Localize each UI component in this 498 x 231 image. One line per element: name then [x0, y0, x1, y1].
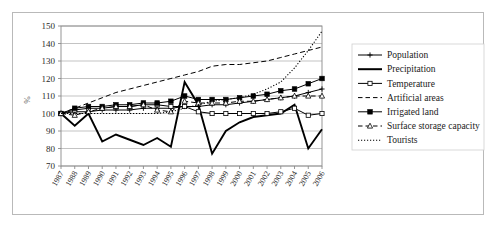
y-tick-label: 100	[42, 109, 56, 119]
series-marker-temperature	[183, 104, 187, 108]
x-tick-label: 2000	[229, 170, 245, 188]
x-tick-label: 2003	[270, 170, 286, 188]
series-marker-temperature	[320, 111, 324, 115]
legend-swatch-marker	[368, 110, 373, 115]
legend-label-temperature: Temperature	[387, 79, 435, 89]
series-marker-surface-storage-capacity	[182, 98, 187, 103]
series-marker-temperature	[210, 111, 214, 115]
series-marker-temperature	[196, 110, 200, 114]
series-marker-irrigated-land	[306, 81, 311, 86]
x-tick-label: 1998	[201, 170, 217, 188]
series-marker-temperature	[237, 111, 241, 115]
legend-label-population: Population	[387, 50, 428, 60]
x-tick-label: 1992	[119, 170, 135, 188]
series-marker-temperature	[265, 111, 269, 115]
y-tick-label: 120	[42, 74, 56, 84]
y-axis-title: %	[22, 96, 32, 104]
x-tick-label: 1991	[105, 170, 121, 188]
legend-swatch-marker	[368, 81, 372, 85]
series-marker-temperature	[279, 110, 283, 114]
legend-label-precipitation: Precipitation	[387, 64, 436, 74]
series-marker-irrigated-land	[292, 87, 297, 92]
y-tick-label: 90	[46, 126, 56, 136]
x-tick-label: 2006	[311, 170, 327, 188]
legend-label-artificial-areas: Artificial areas	[387, 93, 444, 103]
y-tick-label: 110	[42, 91, 56, 101]
x-tick-label: 1993	[132, 170, 148, 188]
x-tick-label: 1990	[91, 170, 107, 188]
x-tick-label: 1988	[64, 170, 80, 188]
legend-label-tourists: Tourists	[387, 135, 418, 145]
series-line-artificial-areas	[61, 47, 322, 114]
series-marker-irrigated-land	[155, 101, 160, 106]
series-marker-irrigated-land	[320, 76, 325, 81]
x-tick-label: 1994	[146, 170, 162, 188]
y-tick-label: 130	[42, 56, 56, 66]
x-tick-label: 2001	[242, 170, 258, 188]
x-tick-label: 1999	[215, 170, 231, 188]
series-marker-temperature	[169, 104, 173, 108]
series-marker-temperature	[224, 111, 228, 115]
chart-svg: 150140130120110100908070%198719881989199…	[0, 0, 498, 231]
x-tick-label: 2004	[283, 170, 299, 188]
x-tick-label: 1996	[174, 170, 190, 188]
y-tick-label: 80	[46, 144, 56, 154]
x-tick-label: 2002	[256, 170, 272, 188]
series-marker-temperature	[306, 113, 310, 117]
series-marker-irrigated-land	[72, 106, 77, 111]
chart-canvas: 150140130120110100908070%198719881989199…	[0, 0, 498, 231]
x-tick-label: 1995	[160, 170, 176, 188]
y-tick-label: 70	[46, 161, 56, 171]
series-marker-temperature	[292, 106, 296, 110]
y-tick-label: 140	[42, 39, 56, 49]
x-tick-label: 1989	[77, 170, 93, 188]
series-marker-temperature	[251, 111, 255, 115]
series-marker-irrigated-land	[278, 88, 283, 93]
legend-label-surface-storage-capacity: Surface storage capacity	[387, 121, 480, 131]
series-marker-irrigated-land	[169, 99, 174, 104]
x-tick-label: 2005	[297, 170, 313, 188]
x-tick-label: 1997	[187, 170, 203, 188]
y-tick-label: 150	[42, 21, 56, 31]
x-tick-label: 1987	[50, 170, 66, 188]
legend-label-irrigated-land: Irrigated land	[387, 107, 439, 117]
